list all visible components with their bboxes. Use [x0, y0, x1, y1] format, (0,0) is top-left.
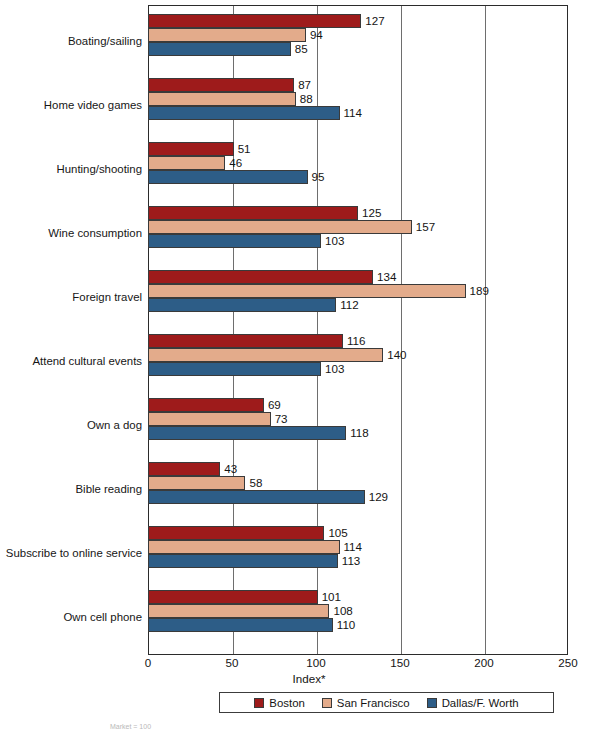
bar-sf[interactable] [148, 476, 245, 490]
bar-slot: 87 [148, 78, 568, 92]
x-tick-label: 50 [226, 656, 239, 669]
bar-group: 125157103 [148, 201, 568, 265]
bar-dfw[interactable] [148, 298, 336, 312]
bar-value-label: 125 [362, 205, 381, 220]
bar-sf[interactable] [148, 220, 412, 234]
bar-value-label: 140 [387, 347, 406, 362]
bar-slot: 105 [148, 526, 568, 540]
bar-slot: 114 [148, 540, 568, 554]
bar-sf[interactable] [148, 28, 306, 42]
x-tick-label: 100 [306, 656, 325, 669]
legend-item-dfw[interactable]: Dallas/F. Worth [427, 697, 519, 709]
bar-dfw[interactable] [148, 234, 321, 248]
bar-value-label: 157 [416, 219, 435, 234]
bar-value-label: 51 [238, 141, 251, 156]
bar-boston[interactable] [148, 78, 294, 92]
bar-slot: 101 [148, 590, 568, 604]
bar-slot: 157 [148, 220, 568, 234]
chart-category-row: Attend cultural events116140103 [0, 329, 594, 393]
bar-sf[interactable] [148, 92, 296, 106]
bar-sf[interactable] [148, 348, 383, 362]
bar-group: 6973118 [148, 393, 568, 457]
x-tick-label: 250 [558, 656, 577, 669]
bar-value-label: 189 [470, 283, 489, 298]
bar-boston[interactable] [148, 142, 234, 156]
bar-value-label: 43 [224, 461, 237, 476]
bar-sf[interactable] [148, 156, 225, 170]
category-label: Own a dog [0, 419, 142, 431]
chart-category-row: Boating/sailing1279485 [0, 9, 594, 73]
bar-dfw[interactable] [148, 618, 333, 632]
bar-slot: 46 [148, 156, 568, 170]
bar-slot: 108 [148, 604, 568, 618]
bar-boston[interactable] [148, 334, 343, 348]
bar-dfw[interactable] [148, 490, 365, 504]
bar-sf[interactable] [148, 412, 271, 426]
bar-value-label: 113 [342, 553, 360, 568]
bar-slot: 129 [148, 490, 568, 504]
legend-swatch-icon [254, 698, 264, 708]
bar-value-label: 108 [333, 603, 352, 618]
bar-group: 1279485 [148, 9, 568, 73]
bar-slot: 69 [148, 398, 568, 412]
category-label: Home video games [0, 99, 142, 111]
legend-swatch-icon [322, 698, 332, 708]
bar-sf[interactable] [148, 284, 466, 298]
bar-dfw[interactable] [148, 554, 338, 568]
bar-value-label: 94 [310, 27, 323, 42]
bar-group: 105114113 [148, 521, 568, 585]
bar-value-label: 114 [344, 105, 362, 120]
chart-category-row: Subscribe to online service105114113 [0, 521, 594, 585]
bar-dfw[interactable] [148, 170, 308, 184]
bar-slot: 94 [148, 28, 568, 42]
bar-value-label: 87 [298, 77, 311, 92]
bar-sf[interactable] [148, 540, 340, 554]
bar-slot: 103 [148, 234, 568, 248]
chart-category-row: Wine consumption125157103 [0, 201, 594, 265]
chart-category-row: Own a dog6973118 [0, 393, 594, 457]
bar-value-label: 88 [300, 91, 313, 106]
bar-dfw[interactable] [148, 106, 340, 120]
chart-category-row: Hunting/shooting514695 [0, 137, 594, 201]
bar-value-label: 114 [344, 539, 362, 554]
bar-dfw[interactable] [148, 362, 321, 376]
legend-item-boston[interactable]: Boston [254, 697, 304, 709]
bar-boston[interactable] [148, 526, 324, 540]
bar-sf[interactable] [148, 604, 329, 618]
bar-slot: 43 [148, 462, 568, 476]
bar-boston[interactable] [148, 462, 220, 476]
bar-value-label: 58 [249, 475, 262, 490]
bar-group: 101108110 [148, 585, 568, 649]
bar-slot: 73 [148, 412, 568, 426]
category-label: Boating/sailing [0, 35, 142, 47]
chart-footnote: Market = 100 [110, 723, 151, 730]
category-label: Hunting/shooting [0, 163, 142, 175]
bar-group: 4358129 [148, 457, 568, 521]
chart-legend: BostonSan FranciscoDallas/F. Worth [219, 692, 554, 713]
chart-category-row: Own cell phone101108110 [0, 585, 594, 649]
bar-boston[interactable] [148, 398, 264, 412]
bar-slot: 127 [148, 14, 568, 28]
bar-chart: Boating/sailing1279485Home video games87… [0, 0, 594, 733]
bar-slot: 114 [148, 106, 568, 120]
category-label: Subscribe to online service [0, 547, 142, 559]
bar-boston[interactable] [148, 206, 358, 220]
bar-boston[interactable] [148, 270, 373, 284]
bar-dfw[interactable] [148, 42, 291, 56]
legend-swatch-icon [427, 698, 437, 708]
bar-slot: 51 [148, 142, 568, 156]
bar-boston[interactable] [148, 14, 361, 28]
bar-value-label: 129 [369, 489, 388, 504]
bar-slot: 58 [148, 476, 568, 490]
bar-value-label: 103 [325, 233, 344, 248]
x-axis-title: Index* [0, 672, 594, 685]
bar-dfw[interactable] [148, 426, 346, 440]
bar-value-label: 103 [325, 361, 344, 376]
bar-value-label: 85 [295, 41, 308, 56]
bar-value-label: 69 [268, 397, 281, 412]
legend-item-sf[interactable]: San Francisco [322, 697, 410, 709]
category-label: Attend cultural events [0, 355, 142, 367]
bar-value-label: 46 [229, 155, 242, 170]
category-label: Bible reading [0, 483, 142, 495]
bar-boston[interactable] [148, 590, 318, 604]
